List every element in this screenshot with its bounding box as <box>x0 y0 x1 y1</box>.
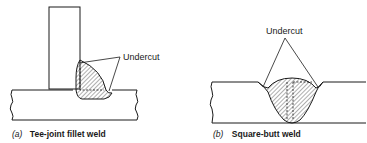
tee-joint-figure: Undercut (a) Tee-joint fillet weld <box>10 7 160 140</box>
fillet-weld <box>76 60 112 99</box>
caption-a: (a) Tee-joint fillet weld <box>12 123 106 140</box>
caption-b-text: Square-butt weld <box>232 129 301 139</box>
butt-weld <box>258 78 323 123</box>
caption-b-index: (b) <box>213 129 224 139</box>
vertical-plate <box>49 7 80 89</box>
base-plate <box>10 90 138 120</box>
undercut-label-a: Undercut <box>123 52 160 62</box>
square-butt-figure: Undercut (b) Square-butt weld <box>210 26 366 140</box>
weld-diagram: Undercut (a) Tee-joint fillet weld Under… <box>0 0 367 143</box>
undercut-label-b: Undercut <box>266 26 303 36</box>
caption-a-index: (a) <box>12 129 23 139</box>
caption-b: (b) Square-butt weld <box>213 123 301 140</box>
caption-a-text: Tee-joint fillet weld <box>30 129 106 139</box>
